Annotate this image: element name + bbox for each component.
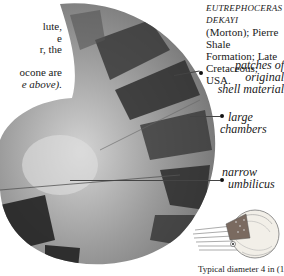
label-narrow-line2: umbilicus xyxy=(218,178,275,190)
intro-line: r, the xyxy=(0,44,62,56)
leader-line-narrow xyxy=(70,180,220,181)
label-narrow: narrow umbilicus xyxy=(218,166,275,190)
intro-text: lute, e r, the ocone are e above). xyxy=(0,21,62,90)
label-large-line2: chambers xyxy=(220,123,267,135)
label-patches-line2: shell material xyxy=(200,83,284,95)
intro-line: lute, xyxy=(0,21,62,33)
pointer-dot-patches xyxy=(199,71,203,75)
leader-line-large xyxy=(190,116,220,117)
species-author: (Morton); Pierre Shale xyxy=(206,26,284,50)
species-name: EUTREPHOCERAS DEKAYI xyxy=(206,2,284,26)
intro-line: e above). xyxy=(0,79,62,91)
label-large: large chambers xyxy=(220,111,267,135)
size-caption: Typical diameter 4 in (10 cm) xyxy=(198,264,284,274)
pointer-dot-narrow xyxy=(220,178,224,182)
label-patches-line1: patches of original xyxy=(200,59,284,83)
intro-line: ocone are xyxy=(0,67,62,79)
pointer-dot-large xyxy=(220,114,224,118)
label-patches: patches of original shell material xyxy=(200,59,284,95)
